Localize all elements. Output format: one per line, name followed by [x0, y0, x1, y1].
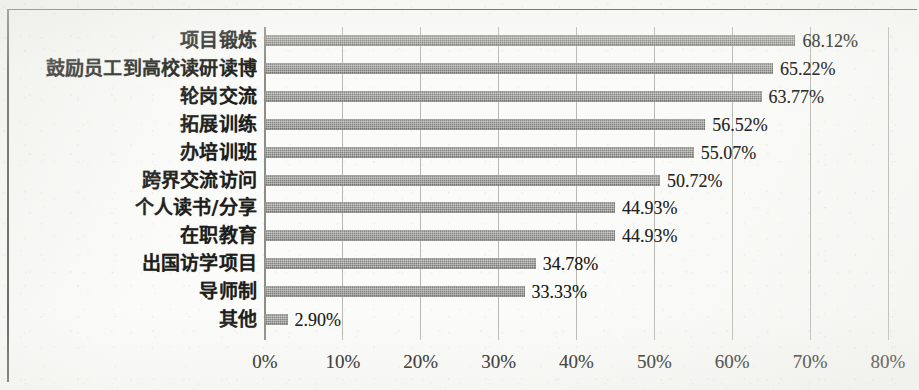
category-label: 在职教育: [180, 226, 257, 245]
x-axis-tick-label: 10%: [325, 352, 360, 371]
x-axis-tick-label: 0%: [252, 352, 277, 371]
bar: [265, 91, 762, 102]
category-label: 出国访学项目: [142, 254, 257, 273]
bar-value-label: 55.07%: [701, 144, 757, 162]
bar-row: 跨界交流访问50.72%: [0, 175, 919, 186]
bar: [265, 202, 615, 213]
bar: [265, 175, 660, 186]
category-label: 跨界交流访问: [142, 171, 257, 190]
bar-chart-plot-area: 项目锻炼68.12%鼓励员工到高校读研读博65.22%轮岗交流63.77%拓展训…: [0, 0, 919, 390]
bar-row: 出国访学项目34.78%: [0, 258, 919, 269]
bar: [265, 63, 773, 74]
bar: [265, 286, 525, 297]
category-label: 项目锻炼: [180, 31, 257, 50]
category-label: 鼓励员工到高校读研读博: [46, 59, 257, 78]
bar-row: 办培训班55.07%: [0, 147, 919, 158]
bar: [265, 258, 536, 269]
bar: [265, 230, 615, 241]
bar-row: 其他2.90%: [0, 314, 919, 325]
category-label: 拓展训练: [180, 115, 257, 134]
bar-value-label: 56.52%: [712, 116, 768, 134]
bar-value-label: 65.22%: [780, 60, 836, 78]
category-label: 办培训班: [180, 143, 257, 162]
bar-row: 鼓励员工到高校读研读博65.22%: [0, 63, 919, 74]
category-label: 其他: [219, 310, 257, 329]
category-label: 导师制: [199, 282, 257, 301]
bar-value-label: 44.93%: [622, 199, 678, 217]
bar-row: 拓展训练56.52%: [0, 119, 919, 130]
bar-row: 项目锻炼68.12%: [0, 35, 919, 46]
x-axis-tick-label: 80%: [871, 352, 906, 371]
bar: [265, 35, 795, 46]
x-axis-tick-label: 70%: [793, 352, 828, 371]
bar-row: 在职教育44.93%: [0, 230, 919, 241]
bar-value-label: 68.12%: [802, 32, 858, 50]
category-label: 轮岗交流: [180, 87, 257, 106]
x-axis-tick-label: 30%: [481, 352, 516, 371]
bar-row: 轮岗交流63.77%: [0, 91, 919, 102]
bar-value-label: 34.78%: [543, 255, 599, 273]
bar: [265, 147, 694, 158]
bar-row: 导师制33.33%: [0, 286, 919, 297]
bar-value-label: 2.90%: [295, 311, 342, 329]
category-label: 个人读书/分享: [135, 198, 257, 217]
x-axis-tick-label: 60%: [715, 352, 750, 371]
bar-value-label: 63.77%: [769, 88, 825, 106]
x-axis-tick-label: 50%: [637, 352, 672, 371]
bar-row: 个人读书/分享44.93%: [0, 202, 919, 213]
bar: [265, 119, 705, 130]
x-axis-tick-label: 20%: [403, 352, 438, 371]
bar-value-label: 33.33%: [532, 283, 588, 301]
bar-value-label: 50.72%: [667, 172, 723, 190]
bar-value-label: 44.93%: [622, 227, 678, 245]
x-axis-tick-label: 40%: [559, 352, 594, 371]
bar: [265, 314, 288, 325]
